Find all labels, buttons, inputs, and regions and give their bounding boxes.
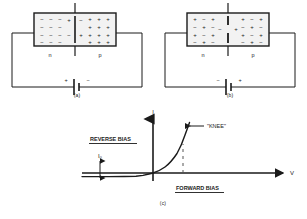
panel-a-caption: (a) <box>57 92 97 98</box>
svg-text:+: + <box>234 26 238 32</box>
battery-negative-terminal-label: − <box>216 77 219 83</box>
knee-label: "KNEE" <box>207 123 226 129</box>
svg-text:−: − <box>202 16 206 22</box>
svg-text:+: + <box>88 32 92 38</box>
svg-text:−: − <box>49 32 53 38</box>
svg-text:+: + <box>67 17 71 23</box>
svg-text:−: − <box>241 39 245 45</box>
svg-text:−: − <box>218 26 222 32</box>
svg-text:+: + <box>97 39 101 45</box>
svg-text:−: − <box>202 32 206 38</box>
n-region-label: n <box>48 52 51 58</box>
forward-bias-annotation: FORWARD BIAS <box>175 185 224 193</box>
svg-text:−: − <box>241 24 245 30</box>
svg-text:−: − <box>259 24 263 30</box>
svg-text:+: + <box>106 24 110 30</box>
svg-text:+: + <box>97 32 101 38</box>
svg-text:+: + <box>259 16 263 22</box>
svg-text:+: + <box>97 16 101 22</box>
svg-text:+: + <box>241 32 245 38</box>
svg-text:−: − <box>250 32 254 38</box>
svg-text:+: + <box>106 39 110 45</box>
svg-text:−: − <box>58 24 62 30</box>
svg-text:−: − <box>58 39 62 45</box>
svg-text:−: − <box>49 24 53 30</box>
p-region-label: p <box>98 52 101 58</box>
svg-text:+: + <box>211 32 215 38</box>
battery-positive-terminal-label: + <box>238 77 241 83</box>
panel-forward-bias: −−− −−− −−− −−− +− −+ +++ +++ +++ +++ n … <box>0 0 154 105</box>
svg-text:+: + <box>106 32 110 38</box>
x-axis-label: V <box>290 170 294 176</box>
svg-text:−: − <box>58 16 62 22</box>
svg-text:+: + <box>193 32 197 38</box>
svg-text:−: − <box>211 24 215 30</box>
reverse-bias-annotation: REVERSE BIAS <box>89 136 137 144</box>
svg-text:−: − <box>40 32 44 38</box>
svg-text:+: + <box>259 32 263 38</box>
svg-text:+: + <box>88 16 92 22</box>
panel-iv-characteristic: I V "KNEE" REVERSE BIAS FORWARD BIAS I₀ <box>78 103 307 219</box>
svg-text:+: + <box>193 16 197 22</box>
svg-text:+: + <box>241 16 245 22</box>
svg-text:−: − <box>40 39 44 45</box>
svg-text:+: + <box>79 32 83 38</box>
reverse-bias-circuit-diagram: −+ +−+ −+− +−+ −+− +−+ −+− +−+ −+− n p −… <box>153 0 307 105</box>
n-region-label: n <box>201 52 204 58</box>
svg-text:−: − <box>259 39 263 45</box>
forward-bias-circuit-diagram: −−− −−− −−− −−− +− −+ +++ +++ +++ +++ n … <box>0 0 154 105</box>
saturation-current-annotation: I₀ <box>98 153 103 178</box>
svg-text:+: + <box>88 24 92 30</box>
svg-text:−: − <box>40 24 44 30</box>
svg-text:−: − <box>40 16 44 22</box>
diode-iv-curve <box>82 123 190 177</box>
saturation-current-label: I₀ <box>98 153 103 159</box>
svg-text:−: − <box>193 39 197 45</box>
svg-text:+: + <box>106 16 110 22</box>
y-axis-label: I <box>152 109 154 115</box>
svg-text:−: − <box>49 16 53 22</box>
svg-text:−: − <box>193 24 197 30</box>
svg-text:−: − <box>211 39 215 45</box>
battery-negative-terminal-label: − <box>86 77 89 83</box>
panel-b-caption: (b) <box>210 92 250 98</box>
forward-bias-label: FORWARD BIAS <box>176 185 219 191</box>
battery-positive-terminal-label: + <box>64 77 67 83</box>
svg-text:−: − <box>58 32 62 38</box>
panel-reverse-bias: −+ +−+ −+− +−+ −+− +−+ −+− +−+ −+− n p −… <box>153 0 307 105</box>
iv-characteristic-chart: I V "KNEE" REVERSE BIAS FORWARD BIAS I₀ <box>78 103 307 219</box>
reverse-bias-label: REVERSE BIAS <box>90 136 131 142</box>
svg-text:+: + <box>202 39 206 45</box>
svg-text:−: − <box>79 17 83 23</box>
svg-text:+: + <box>211 16 215 22</box>
svg-text:+: + <box>88 39 92 45</box>
svg-text:+: + <box>97 24 101 30</box>
panel-c-caption: (c) <box>143 200 183 206</box>
p-region-label: p <box>251 52 254 58</box>
svg-text:−: − <box>67 32 71 38</box>
svg-text:+: + <box>250 24 254 30</box>
svg-text:+: + <box>202 24 206 30</box>
svg-text:−: − <box>250 16 254 22</box>
svg-text:+: + <box>250 39 254 45</box>
knee-annotation: "KNEE" <box>190 123 226 129</box>
svg-text:−: − <box>49 39 53 45</box>
